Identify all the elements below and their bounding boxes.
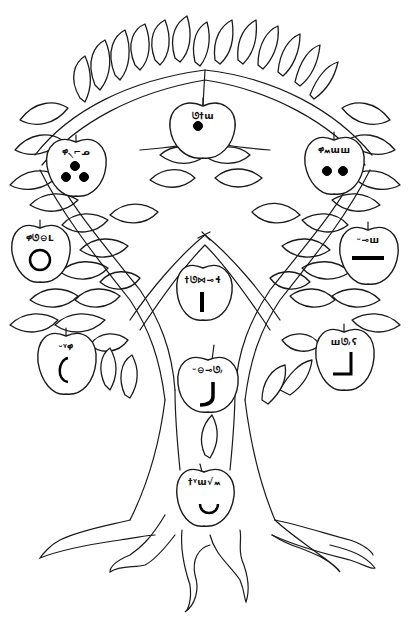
apple-label-upper-right: ዋ៳ɯш	[318, 146, 351, 155]
apple-upper-right	[305, 132, 364, 194]
apple-label-center-lower: †ᵞɯ√៳	[188, 478, 220, 487]
apple-mid-left	[12, 220, 70, 282]
apple-label-lower-right: шᘎ៸ʕ	[331, 338, 358, 347]
apple-label-upper-left: ዋ৲⌐ᓄ	[62, 148, 91, 157]
apple-label-center-middle: ᵕ⊖⊸ᘎ៸	[192, 366, 224, 375]
apple-lower-right	[316, 324, 374, 390]
apple-label-top-center: ᘎ†ɯ	[192, 112, 214, 121]
symbol-dot	[71, 162, 80, 171]
apple-label-lower-left: ᵕᵞዋ	[58, 343, 74, 352]
apple-label-mid-right: ᵕ⊸ш	[357, 236, 380, 245]
apple-upper-left	[47, 135, 107, 196]
symbol-dot	[323, 167, 332, 176]
roots	[40, 515, 375, 612]
apple-center-upper	[177, 265, 232, 320]
apple-label-mid-left: ዋᘎ⊖ᒪ	[26, 234, 54, 243]
apples	[12, 98, 398, 526]
apple-center-middle	[178, 345, 238, 412]
symbol-dot	[339, 167, 348, 176]
tree-illustration: ᘎ†ɯ ዋ৲⌐ᓄ ዋ៳ɯш ዋᘎ⊖ᒪ ᵕ⊸ш †ᘎ⋈⊸ɬ ᵕᵞዋ шᘎ៸ʕ ᵕ⊖…	[0, 0, 410, 621]
apple-lower-left	[38, 328, 96, 394]
apple-mid-right	[340, 222, 398, 284]
tree-drawing	[0, 0, 410, 621]
symbol-dot	[62, 173, 71, 182]
symbol-dot	[80, 173, 89, 182]
apple-center-lower	[177, 464, 234, 526]
symbol-one-dot	[194, 122, 203, 131]
apple-top-center	[170, 98, 235, 158]
apple-label-center-upper: †ᘎ⋈⊸ɬ	[185, 276, 222, 285]
